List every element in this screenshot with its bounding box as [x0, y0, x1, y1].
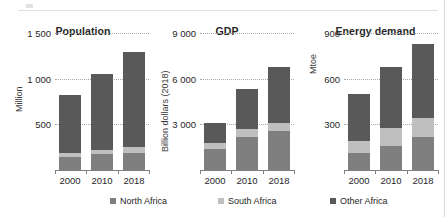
y-tick-label-population-1000: 1 000 [2, 73, 55, 84]
x-tick-labels-gdp: 200020102018 [204, 175, 290, 189]
legend-item-other-africa: Other Africa [330, 196, 388, 206]
bar-gdp-2000[interactable] [204, 123, 226, 170]
y-tick-label-gdp-6000: 6 000 [150, 73, 200, 84]
bar-segment-gdp-2018-north-africa [268, 131, 290, 170]
bar-segment-population-2000-north-africa [59, 157, 81, 170]
chart-panel-gdp: GDP Billion dollars (2018) 200020102018 … [150, 0, 298, 217]
plot-area-population [59, 33, 145, 170]
bar-group-energy [348, 33, 434, 170]
y-tick-label-population-500: 500 [2, 119, 55, 130]
bar-energy-2000[interactable] [348, 94, 370, 170]
bar-segment-energy-2000-other-africa [348, 94, 370, 141]
chart-panel-population: Population Million 200020102018 5001 000… [2, 0, 150, 217]
y-axis-title-energy: Mtoe [308, 54, 318, 74]
x-tick-label-population-2000: 2000 [59, 175, 81, 189]
bar-segment-energy-2018-south-africa [412, 118, 434, 137]
legend-swatch-south-africa [218, 198, 224, 204]
legend-label-north-africa: North Africa [120, 196, 167, 206]
bar-segment-energy-2000-north-africa [348, 153, 370, 170]
legend-item-south-africa: South Africa [218, 196, 277, 206]
x-axis-endcap-energy-0 [344, 170, 345, 174]
x-axis-endcap-gdp-1 [294, 170, 295, 174]
x-tick-label-energy-2010: 2010 [380, 175, 402, 189]
bar-gdp-2018[interactable] [268, 67, 290, 170]
legend-item-north-africa: North Africa [110, 196, 167, 206]
x-axis-tick-population-2 [118, 170, 119, 174]
bar-segment-population-2000-other-africa [59, 95, 81, 153]
x-axis-endcap-energy-1 [438, 170, 439, 174]
x-axis-tick-energy-1 [375, 170, 376, 174]
bar-segment-energy-2018-other-africa [412, 44, 434, 119]
bar-segment-population-2010-north-africa [91, 154, 113, 170]
bar-energy-2010[interactable] [380, 67, 402, 170]
bar-population-2000[interactable] [59, 95, 81, 170]
x-tick-label-population-2018: 2018 [123, 175, 145, 189]
x-axis-tick-population-1 [86, 170, 87, 174]
bar-segment-energy-2010-other-africa [380, 67, 402, 129]
bar-group-gdp [204, 33, 290, 170]
bar-segment-population-2010-other-africa [91, 74, 113, 150]
plot-area-energy [348, 33, 434, 170]
x-axis-energy [344, 170, 438, 171]
x-tick-label-population-2010: 2010 [91, 175, 113, 189]
figure-canvas: Population Million 200020102018 5001 000… [0, 0, 445, 217]
y-tick-label-gdp-9000: 9 000 [150, 28, 200, 39]
y-tick-label-population-1500: 1 500 [2, 28, 55, 39]
y-tick-label-energy-900: 900 [298, 28, 344, 39]
x-tick-label-energy-2000: 2000 [348, 175, 370, 189]
bar-segment-population-2018-north-africa [123, 153, 145, 170]
y-tick-label-gdp-3000: 3 000 [150, 119, 200, 130]
bar-segment-gdp-2000-other-africa [204, 123, 226, 143]
bar-gdp-2010[interactable] [236, 89, 258, 170]
chart-panel-energy: Energy demand Mtoe 200020102018 30060090… [298, 0, 445, 217]
legend-swatch-other-africa [330, 198, 336, 204]
x-tick-label-gdp-2018: 2018 [268, 175, 290, 189]
bar-segment-energy-2010-south-africa [380, 128, 402, 146]
bar-segment-gdp-2018-south-africa [268, 123, 290, 131]
x-axis-endcap-gdp-0 [200, 170, 201, 174]
legend-label-other-africa: Other Africa [340, 196, 388, 206]
x-axis-tick-energy-2 [407, 170, 408, 174]
x-axis-gdp [200, 170, 294, 171]
x-tick-label-gdp-2010: 2010 [236, 175, 258, 189]
x-tick-label-energy-2018: 2018 [412, 175, 434, 189]
bar-segment-energy-2010-north-africa [380, 146, 402, 170]
x-axis-population [55, 170, 149, 171]
y-axis-title-population: Million [14, 86, 24, 112]
plot-area-gdp [204, 33, 290, 170]
bar-segment-energy-2018-north-africa [412, 137, 434, 170]
chart-legend: North Africa South Africa Other Africa [0, 196, 445, 212]
x-axis-endcap-population-0 [55, 170, 56, 174]
legend-label-south-africa: South Africa [228, 196, 277, 206]
bar-segment-gdp-2000-north-africa [204, 149, 226, 170]
bar-group-population [59, 33, 145, 170]
bar-energy-2018[interactable] [412, 44, 434, 170]
bar-population-2018[interactable] [123, 52, 145, 170]
bar-segment-gdp-2010-north-africa [236, 137, 258, 170]
y-tick-label-energy-300: 300 [298, 119, 344, 130]
bar-segment-population-2018-other-africa [123, 52, 145, 147]
x-axis-tick-gdp-1 [231, 170, 232, 174]
legend-swatch-north-africa [110, 198, 116, 204]
x-tick-labels-population: 200020102018 [59, 175, 145, 189]
bar-segment-gdp-2010-south-africa [236, 129, 258, 137]
x-tick-labels-energy: 200020102018 [348, 175, 434, 189]
x-tick-label-gdp-2000: 2000 [204, 175, 226, 189]
x-axis-tick-gdp-2 [263, 170, 264, 174]
bar-segment-energy-2000-south-africa [348, 141, 370, 153]
y-tick-label-energy-600: 600 [298, 73, 344, 84]
bar-segment-gdp-2010-other-africa [236, 89, 258, 129]
bar-segment-gdp-2018-other-africa [268, 67, 290, 123]
bar-population-2010[interactable] [91, 74, 113, 170]
